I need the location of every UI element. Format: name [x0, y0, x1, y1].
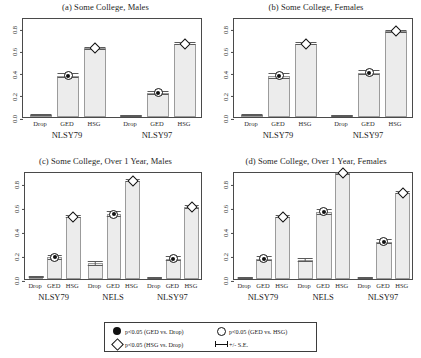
panel-title-d: (d) Some College, Over 1 Year, Females: [211, 156, 421, 166]
panel-b: (b) Some College, Females0.00.20.40.60.8…: [211, 2, 421, 152]
bar[interactable]: [316, 212, 331, 279]
y-tick-a-2: 0.4: [12, 70, 23, 78]
bar[interactable]: [107, 214, 122, 279]
bar[interactable]: [84, 48, 106, 117]
bar[interactable]: [385, 31, 407, 117]
error-stem: [245, 277, 246, 279]
x-category-label: Drop: [235, 282, 254, 289]
y-tick-mark: [231, 209, 234, 210]
bar[interactable]: [298, 260, 313, 279]
y-tick-c-3: 0.6: [14, 205, 25, 213]
y-tick-mark: [231, 74, 234, 75]
y-tick-label: 0.6: [223, 205, 230, 213]
legend-filled-circle-icon: [113, 327, 121, 335]
y-tick-b-1: 0.2: [223, 93, 234, 101]
x-category-label: GED: [104, 282, 123, 289]
legend-entry-3: +/- S.E.: [213, 338, 248, 350]
y-tick-mark: [22, 281, 25, 282]
error-stem: [365, 277, 366, 278]
x-category-label: GED: [144, 120, 171, 127]
legend-label: p<0.05 (GED vs. HSG): [229, 328, 287, 335]
legend-entry-2: p<0.05 (GED vs. HSG): [213, 325, 287, 337]
bar[interactable]: [268, 76, 290, 117]
x-group-label-NELS: NELS: [83, 292, 142, 302]
error-bar: [241, 114, 262, 116]
bar-group-c-1: [86, 173, 142, 279]
x-group-label-NLSY97: NLSY97: [143, 292, 202, 302]
bar[interactable]: [88, 263, 103, 279]
bar[interactable]: [275, 217, 290, 279]
error-bar: [147, 277, 162, 278]
error-bar: [358, 277, 373, 278]
error-bar: [29, 276, 44, 278]
error-stem: [251, 114, 252, 116]
plot-area-a: 0.00.20.40.60.8: [22, 18, 202, 118]
y-tick-mark: [22, 185, 25, 186]
bar[interactable]: [376, 242, 391, 279]
y-tick-label: 0.8: [223, 181, 230, 189]
bar[interactable]: [358, 73, 380, 117]
bar[interactable]: [57, 76, 79, 117]
x-category-label: Drop: [85, 282, 104, 289]
bar[interactable]: [125, 181, 140, 279]
significance-marker-filled-circle-icon: [50, 253, 59, 262]
legend-symbol-wrap: [109, 325, 125, 337]
y-tick-mark: [22, 233, 25, 234]
y-tick-d-0: 0.0: [223, 277, 234, 285]
bar-group-c-2: [145, 173, 201, 279]
bar[interactable]: [295, 44, 317, 117]
x-group-label-NLSY97: NLSY97: [112, 130, 202, 140]
panel-title-b: (b) Some College, Females: [211, 2, 421, 12]
bar-group-d-1: [296, 173, 352, 279]
y-tick-label: 0.4: [223, 70, 230, 78]
bar[interactable]: [335, 173, 350, 279]
error-stem: [95, 261, 96, 265]
error-stem: [36, 276, 37, 278]
y-tick-d-2: 0.4: [223, 229, 234, 237]
y-tick-a-1: 0.2: [12, 93, 23, 101]
y-tick-label: 0.2: [12, 93, 19, 101]
y-tick-mark: [231, 52, 234, 53]
y-tick-label: 0.4: [12, 70, 19, 78]
bar[interactable]: [395, 193, 410, 279]
plot-area-c: 0.00.20.40.60.8: [24, 172, 202, 280]
y-tick-label: 0.6: [223, 48, 230, 56]
error-bar: [120, 115, 141, 116]
y-tick-label: 0.6: [12, 48, 19, 56]
significance-marker-filled-circle-icon: [365, 68, 374, 77]
error-bar: [298, 258, 313, 263]
x-category-label: HSG: [171, 120, 198, 127]
legend-label: p<0.05 (GED vs. Drop): [125, 328, 184, 335]
x-category-label: GED: [254, 282, 273, 289]
bar-group-b-1: [329, 19, 410, 117]
bar-group-c-0: [27, 173, 83, 279]
y-tick-label: 0.2: [223, 253, 230, 261]
error-stem: [305, 258, 306, 263]
y-tick-label: 0.0: [12, 115, 19, 123]
y-tick-mark: [231, 185, 234, 186]
x-group-label-NLSY97: NLSY97: [353, 292, 413, 302]
x-category-label: GED: [355, 120, 382, 127]
y-tick-label: 0.4: [14, 229, 21, 237]
y-tick-mark: [20, 119, 23, 120]
legend-entry-1: p<0.05 (HSG vs. Drop): [109, 338, 183, 350]
x-category-label: Drop: [27, 120, 54, 127]
y-tick-a-4: 0.8: [12, 26, 23, 34]
y-tick-c-4: 0.8: [14, 181, 25, 189]
x-category-label: HSG: [182, 282, 201, 289]
x-category-label: GED: [163, 282, 182, 289]
y-tick-mark: [231, 96, 234, 97]
y-tick-mark: [231, 233, 234, 234]
y-tick-d-1: 0.2: [223, 253, 234, 261]
y-tick-mark: [22, 209, 25, 210]
bar[interactable]: [66, 217, 81, 279]
x-group-label-NLSY79: NLSY79: [22, 130, 112, 140]
bar[interactable]: [174, 44, 196, 117]
y-tick-label: 0.0: [223, 115, 230, 123]
x-category-label: GED: [265, 120, 292, 127]
x-group-label-NELS: NELS: [293, 292, 353, 302]
bar[interactable]: [184, 207, 199, 279]
y-tick-mark: [20, 30, 23, 31]
x-category-label: HSG: [122, 282, 141, 289]
x-group-label-NLSY79: NLSY79: [233, 130, 323, 140]
